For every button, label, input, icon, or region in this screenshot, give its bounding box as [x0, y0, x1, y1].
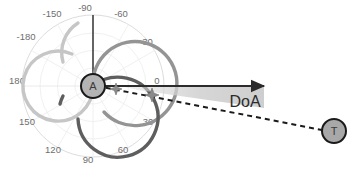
polar-tick-90: 90 [83, 154, 94, 165]
target-node-label: T [331, 125, 338, 137]
polar-tick-60: 60 [118, 144, 129, 155]
polar-tick-minus180: -180 [16, 31, 35, 42]
polar-tick-minus60: -60 [114, 8, 128, 19]
doa-diagram-figure: -180 -150 -90 -60 -30 0 30 60 90 120 150… [0, 0, 356, 173]
polar-tick-150: 150 [19, 116, 35, 127]
anchor-node[interactable]: A [81, 74, 105, 98]
target-node[interactable]: T [322, 119, 346, 143]
polar-tick-120: 120 [45, 144, 61, 155]
polar-tick-zero: 0 [154, 75, 159, 86]
anchor-node-label: A [89, 80, 97, 92]
polar-tick-minus90: -90 [78, 2, 92, 13]
beam-lobe-lower-tail [60, 96, 63, 104]
doa-diagram-canvas: -180 -150 -90 -60 -30 0 30 60 90 120 150… [0, 0, 356, 173]
doa-label: DoA [229, 93, 260, 110]
polar-tick-minus150: -150 [42, 8, 61, 19]
bearing-marker-1 [110, 83, 122, 95]
